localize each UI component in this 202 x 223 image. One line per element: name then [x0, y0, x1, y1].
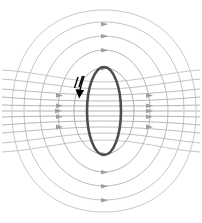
field-line-through-dn-4	[2, 133, 200, 143]
arrowhead-axis-left	[55, 109, 62, 113]
magnetic-field-diagram: I Magnetic field lines of a circular cur…	[0, 0, 202, 223]
field-line-through-up-5	[2, 70, 200, 82]
arrowhead-mid-left-up	[56, 104, 63, 108]
arrowhead-top-2	[101, 34, 108, 39]
field-line-through-dn-5	[2, 140, 200, 152]
field-line-loop-outer-1	[58, 50, 150, 111]
arrowhead-upper-right-band	[146, 93, 153, 98]
arrowhead-mid-left-dn	[56, 115, 63, 119]
field-line-through-dn-2	[2, 121, 200, 125]
field-line-loop-outer-2	[40, 36, 168, 111]
field-line-through-up-3	[2, 89, 200, 95]
arrowhead-bottom-3	[101, 170, 108, 175]
field-line-through-dn-1	[2, 116, 200, 117]
field-line-through-up-4	[2, 79, 200, 89]
arrowhead-bottom-2	[101, 184, 108, 189]
field-line-through-up-1	[2, 105, 200, 106]
arrowhead-top-1	[101, 22, 108, 27]
field-line-loop-outer-1-lower	[58, 111, 150, 172]
field-line-loop-inner	[74, 68, 134, 111]
field-line-loop-outer-2-lower	[40, 111, 168, 186]
field-line-canvas	[0, 0, 202, 223]
field-line-through-dn-3	[2, 127, 200, 133]
current-annotation	[75, 76, 85, 94]
current-label-stroke-1	[75, 77, 79, 88]
field-line-loop-inner-lower	[74, 111, 134, 154]
field-line-through-up-2	[2, 97, 200, 101]
field-lines-through	[2, 70, 200, 152]
arrowhead-bottom-1	[101, 198, 108, 203]
arrowhead-axis-right	[146, 109, 153, 113]
arrowhead-top-3	[101, 48, 108, 53]
